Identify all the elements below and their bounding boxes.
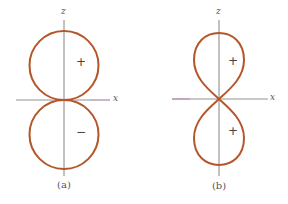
figure-a: z x + − (a) [0, 0, 144, 204]
figure-b: z x + + (b) [144, 0, 288, 204]
upper-lobe-sign: + [228, 55, 238, 67]
upper-lobe-sign: + [76, 56, 86, 68]
lower-lobe-sign: − [76, 126, 86, 138]
z-axis-label: z [61, 7, 66, 16]
figure-caption: (b) [212, 181, 226, 191]
x-axis-label: x [113, 94, 118, 103]
x-axis-label: x [270, 93, 275, 102]
figure-b-plot [144, 0, 288, 204]
figure-a-plot [0, 0, 144, 204]
figure-caption: (a) [57, 180, 71, 190]
z-axis-label: z [216, 7, 221, 16]
lower-lobe-sign: + [228, 125, 238, 137]
